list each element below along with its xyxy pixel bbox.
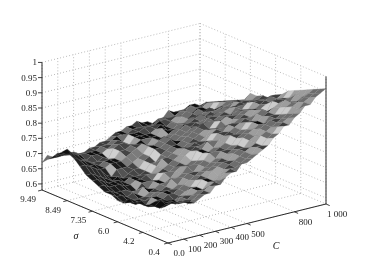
z-tick-label: 0.9 [26, 88, 37, 97]
sigma-tick-label: 0.4 [148, 248, 159, 257]
c-tick-label: 500 [251, 229, 265, 238]
sigma-tick-label: 6.0 [98, 226, 109, 235]
surface-plot-canvas [0, 0, 369, 277]
accuracy-surface-figure: σ C 10.950.90.850.80.750.70.650.69.498.4… [0, 0, 369, 277]
z-tick-label: 0.7 [26, 149, 37, 158]
c-tick-label: 400 [235, 233, 249, 242]
c-tick-label: 1 000 [327, 210, 347, 219]
z-tick-label: 1 [33, 58, 38, 67]
c-tick-label: 300 [220, 237, 234, 246]
z-tick-label: 0.95 [21, 73, 37, 82]
c-tick-label: 100 [188, 245, 202, 254]
z-tick-label: 0.6 [26, 179, 37, 188]
sigma-axis-label: σ [74, 231, 79, 241]
sigma-tick-label: 7.35 [71, 216, 87, 225]
z-tick-label: 0.75 [21, 134, 37, 143]
z-tick-label: 0.85 [21, 103, 37, 112]
c-tick-label: 200 [204, 241, 218, 250]
c-axis-label: C [273, 241, 280, 251]
c-tick-label: 800 [299, 217, 313, 226]
sigma-tick-label: 8.49 [45, 205, 61, 214]
sigma-tick-label: 4.2 [123, 237, 134, 246]
c-tick-label: 0.0 [173, 249, 184, 258]
z-tick-label: 0.8 [26, 119, 37, 128]
z-tick-label: 0.65 [21, 164, 37, 173]
sigma-tick-label: 9.49 [20, 195, 36, 204]
